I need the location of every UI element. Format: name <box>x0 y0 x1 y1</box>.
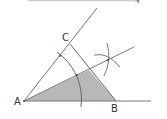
arc-point-bisector <box>76 74 78 76</box>
vertex-a-point <box>23 100 25 102</box>
label-a: A <box>14 97 21 107</box>
shaded-triangle <box>24 70 116 101</box>
bisector-intersection-point <box>107 59 109 61</box>
construction-figure <box>0 0 167 119</box>
arc-point-ac <box>59 55 61 57</box>
label-c: C <box>62 33 69 43</box>
label-b: B <box>111 104 118 114</box>
diagram-canvas: A B C <box>0 0 167 119</box>
